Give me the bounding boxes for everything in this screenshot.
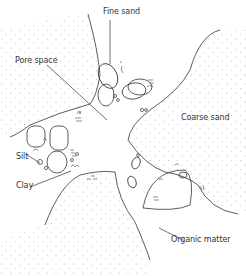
label-pore-space: Pore space xyxy=(15,57,57,65)
label-clay: Clay xyxy=(16,182,33,190)
sand-grain-top-left xyxy=(0,14,100,137)
label-coarse-sand: Coarse sand xyxy=(181,114,229,122)
label-silt: Silt xyxy=(16,153,28,161)
sand-grain-right xyxy=(128,30,246,215)
label-organic-matter: Organic matter xyxy=(171,236,230,244)
label-fine-sand: Fine sand xyxy=(103,8,140,16)
